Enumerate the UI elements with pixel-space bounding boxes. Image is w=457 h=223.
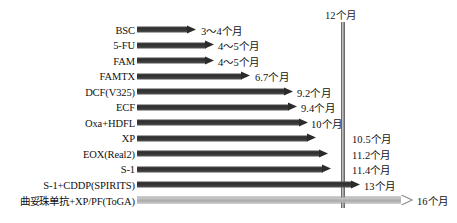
bar-arrowhead-icon [319,149,328,157]
chart-row: 曲妥珠单抗+XP/PF(ToGA)16个月 [0,193,457,209]
chart-row: S-111.4个月 [0,162,457,178]
bar-value-label: 10个月 [311,115,342,130]
bar-solid [137,41,214,50]
bar-body [137,27,188,33]
row-category-label: Oxa+HDFL [85,117,135,128]
bar-value-label: 4～5个月 [218,53,259,68]
chart-row: FAM4～5个月 [0,53,457,69]
chart-row: XP10.5个月 [0,131,457,147]
bar-body [137,166,323,172]
row-category-label: DCF(V325) [85,86,135,97]
reference-line-label: 12个月 [325,7,356,22]
survival-bar-chart: 12个月 BSC3～4个月5-FU4～5个月FAM4～5个月FAMTX6.7个月… [0,0,457,223]
chart-row: BSC3～4个月 [0,22,457,38]
bar-body [137,73,242,79]
bar-body [137,151,320,157]
bar-solid [137,134,316,143]
row-category-label: S-1 [121,164,135,175]
row-category-label: XP [122,133,135,144]
bar-solid [137,118,308,127]
chart-row: S-1+CDDP(SPIRITS)13个月 [0,177,457,193]
bar-body [137,120,300,126]
bar-arrowhead-icon [322,165,331,173]
bar-value-label: 9.4个月 [301,100,335,115]
bar-arrowhead-icon [401,195,413,206]
chart-row: FAMTX6.7个月 [0,69,457,85]
bar-arrowhead-icon [187,25,196,33]
row-category-label: ECF [116,102,135,113]
bar-value-label: 3～4个月 [201,22,242,37]
bar-arrowhead-icon [288,103,297,111]
chart-row: DCF(V325)9.2个月 [0,84,457,100]
row-category-label: 5-FU [113,40,135,51]
bar-body [137,197,401,204]
bar-solid [137,180,360,189]
bar-arrowhead-icon [205,56,214,64]
row-category-label: BSC [115,24,135,35]
bar-arrowhead-icon [241,72,250,80]
row-category-label: S-1+CDDP(SPIRITS) [43,179,135,190]
bar-value-label: 6.7个月 [255,69,289,84]
bar-solid [137,72,250,81]
bar-arrowhead-icon [299,118,308,126]
bar-body [137,135,308,141]
bar-solid [137,87,293,96]
bar-solid [137,165,331,174]
bar-body [137,42,206,48]
row-category-label: 曲妥珠单抗+XP/PF(ToGA) [20,193,135,208]
bar-solid [137,56,214,65]
row-category-label: FAMTX [100,71,135,82]
bar-value-label: 13个月 [364,177,395,192]
bar-value-label: 16个月 [417,193,448,208]
bar-body [137,89,285,95]
chart-row: ECF9.4个月 [0,100,457,116]
chart-row: Oxa+HDFL10个月 [0,115,457,131]
bar-body [137,182,352,188]
bar-value-label: 11.2个月 [352,146,391,161]
bar-arrowhead-icon [307,134,316,142]
bar-value-label: 10.5个月 [352,131,391,146]
bar-solid [137,149,328,158]
bar-arrowhead-icon [284,87,293,95]
bar-outline [137,196,412,205]
bar-body [137,58,206,64]
chart-row: 5-FU4～5个月 [0,38,457,54]
bar-value-label: 4～5个月 [218,38,259,53]
bar-arrowhead-icon [351,180,360,188]
bar-body [137,104,289,110]
bar-solid [137,25,196,34]
chart-row: EOX(Real2)11.2个月 [0,146,457,162]
bar-value-label: 11.4个月 [352,162,391,177]
bar-solid [137,103,297,112]
bar-value-label: 9.2个月 [297,84,331,99]
row-category-label: FAM [113,55,135,66]
bar-arrowhead-icon [205,41,214,49]
row-category-label: EOX(Real2) [83,148,135,159]
